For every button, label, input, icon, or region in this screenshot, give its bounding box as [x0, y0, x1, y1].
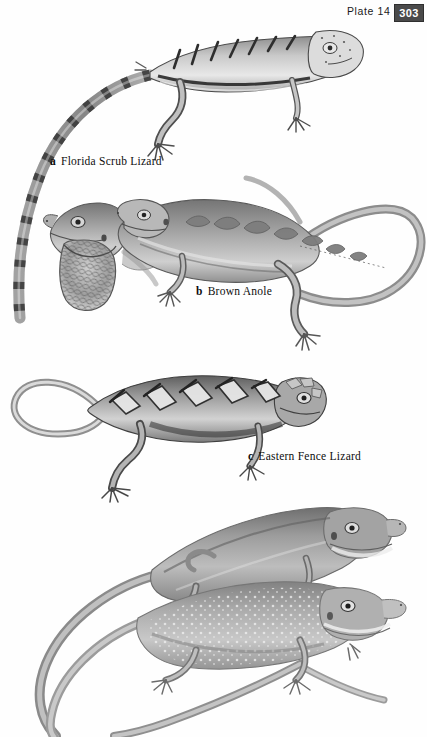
caption-eastern-fence-lizard: cEastern Fence Lizard — [248, 450, 361, 462]
caption-florida-scrub-lizard: aFlorida Scrub Lizard — [50, 155, 162, 167]
figure-brown-anole-dewlap — [43, 203, 167, 310]
page-header: Plate 14 303 — [0, 0, 427, 26]
caption-text-a: Florida Scrub Lizard — [61, 155, 162, 167]
caption-letter-b: b — [196, 285, 203, 297]
caption-text-b: Brown Anole — [208, 285, 272, 297]
page-number-badge: 303 — [394, 4, 424, 22]
page-number-text: 303 — [399, 8, 419, 19]
figure-green-anole-upper — [40, 508, 406, 736]
plate-page: Plate 14 303 — [0, 0, 427, 737]
figure-eastern-fence-lizard — [14, 376, 326, 502]
caption-brown-anole: bBrown Anole — [196, 285, 272, 297]
caption-text-c: Eastern Fence Lizard — [258, 450, 361, 462]
figure-florida-scrub-lizard — [19, 30, 364, 318]
caption-letter-c: c — [248, 450, 253, 462]
caption-letter-a: a — [50, 155, 56, 167]
plate-illustrations — [0, 0, 427, 737]
plate-label: Plate 14 — [347, 5, 390, 17]
figure-brown-anole-body — [117, 178, 421, 350]
figure-green-anole-lower — [50, 582, 406, 737]
